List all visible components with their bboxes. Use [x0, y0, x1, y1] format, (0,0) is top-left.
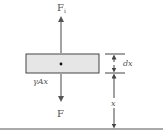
x-label: x	[111, 99, 116, 108]
fluid-element	[26, 54, 99, 73]
dx-label: dx	[123, 59, 133, 68]
weight-label: γAx	[33, 77, 49, 86]
force-up-label: Fi	[57, 2, 66, 14]
center-dot	[60, 63, 63, 66]
free-body-diagram: Fi γAx F dx x	[0, 0, 163, 139]
force-down-label: F	[57, 108, 64, 119]
